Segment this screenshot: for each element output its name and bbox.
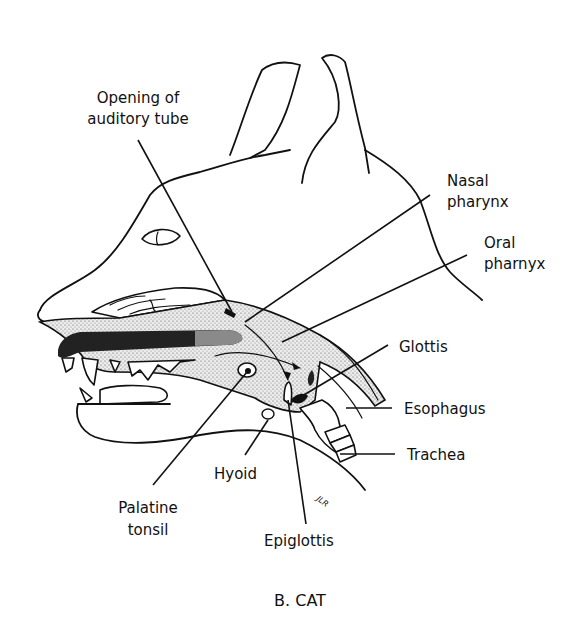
label-esophagus: Esophagus (404, 400, 486, 418)
label-epiglottis: Epiglottis (264, 532, 334, 550)
svg-text:auditory tube: auditory tube (87, 110, 188, 128)
svg-text:Palatine: Palatine (118, 499, 178, 517)
svg-text:pharnyx: pharnyx (484, 255, 546, 273)
label-oral-pharynx: Oral pharnyx (484, 234, 546, 273)
label-nasal-pharynx: Nasal pharynx (447, 172, 509, 211)
figure-caption: B. CAT (274, 591, 326, 610)
label-opening-auditory-tube: Opening of auditory tube (87, 89, 188, 128)
svg-text:Oral: Oral (484, 234, 515, 252)
svg-text:pharynx: pharynx (447, 193, 509, 211)
artist-signature: JLR (313, 493, 330, 509)
larynx-trachea (300, 400, 356, 462)
eye (142, 230, 180, 245)
label-trachea: Trachea (406, 446, 466, 464)
svg-text:Nasal: Nasal (447, 172, 489, 190)
svg-text:tonsil: tonsil (128, 521, 169, 539)
svg-text:Opening of: Opening of (97, 89, 180, 107)
label-hyoid: Hyoid (214, 465, 257, 483)
label-glottis: Glottis (399, 338, 448, 356)
hyoid-shape (262, 409, 274, 419)
label-palatine-tonsil: Palatine tonsil (118, 499, 178, 539)
cat-pharynx-diagram: JLR Opening of auditory tube Nasal phary… (0, 0, 585, 640)
